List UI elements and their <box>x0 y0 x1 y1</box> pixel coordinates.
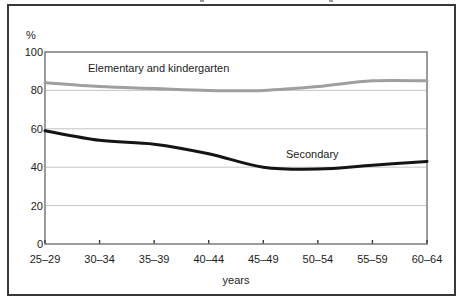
series-label-secondary: Secondary <box>286 148 339 160</box>
y-axis-unit-label: % <box>26 29 36 41</box>
x-axis-tick-label: 30–34 <box>72 253 128 265</box>
series-line-elementary <box>45 80 427 90</box>
x-axis-tick-label: 25–29 <box>17 253 73 265</box>
x-axis-tick-label: 35–39 <box>126 253 182 265</box>
x-axis-tick-label: 55–59 <box>344 253 400 265</box>
x-axis-title: years <box>196 274 276 286</box>
y-axis-tick-label: 20 <box>12 200 43 212</box>
x-axis-tick-label: 40–44 <box>181 253 237 265</box>
x-axis-tick-label: 60–64 <box>399 253 455 265</box>
series-label-elementary: Elementary and kindergarten <box>88 62 229 74</box>
y-axis-tick-label: 60 <box>12 123 43 135</box>
y-axis-tick-label: 0 <box>12 238 43 250</box>
y-axis-tick-label: 100 <box>12 46 43 58</box>
y-axis-tick-label: 40 <box>12 161 43 173</box>
chart-canvas: % 100806040200 25–2930–3435–3940–4445–49… <box>0 0 461 303</box>
y-axis-tick-label: 80 <box>12 84 43 96</box>
x-axis-tick-label: 50–54 <box>290 253 346 265</box>
x-axis-tick-label: 45–49 <box>235 253 291 265</box>
series-line-secondary <box>45 131 427 170</box>
